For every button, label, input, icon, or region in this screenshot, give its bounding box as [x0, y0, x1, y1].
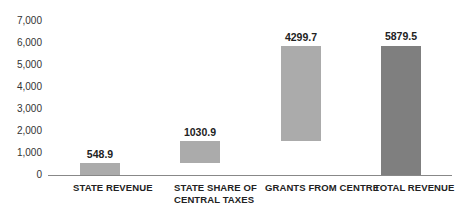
waterfall-chart: 7,000 6,000 5,000 4,000 3,000 2,000 1,00…: [0, 0, 472, 210]
bar-state-revenue: [80, 163, 120, 175]
x-axis-line: [48, 175, 452, 176]
x-label-line: CENTRAL TAXES: [174, 194, 294, 206]
y-tick-5000: 5,000: [0, 59, 42, 71]
bar-state-share-central-taxes: [180, 141, 220, 163]
x-label-total: TOTAL REVENUE: [374, 182, 472, 194]
bar-grants-from-centre: [281, 46, 321, 141]
y-tick-4000: 4,000: [0, 81, 42, 93]
bar-total-revenue: [381, 46, 421, 175]
data-label-total: 5879.5: [361, 30, 441, 42]
y-tick-0: 0: [0, 169, 42, 181]
y-tick-1000: 1,000: [0, 147, 42, 159]
x-label-line: GRANTS FROM CENTRE: [265, 182, 385, 194]
y-tick-6000: 6,000: [0, 37, 42, 49]
x-label-grants: GRANTS FROM CENTRE: [265, 182, 385, 194]
y-tick-7000: 7,000: [0, 15, 42, 27]
y-tick-2000: 2,000: [0, 125, 42, 137]
data-label-state-share: 1030.9: [160, 126, 240, 138]
x-label-line: TOTAL REVENUE: [374, 182, 472, 194]
data-label-state-revenue: 548.9: [60, 148, 140, 160]
data-label-grants: 4299.7: [261, 31, 341, 43]
y-tick-3000: 3,000: [0, 103, 42, 115]
